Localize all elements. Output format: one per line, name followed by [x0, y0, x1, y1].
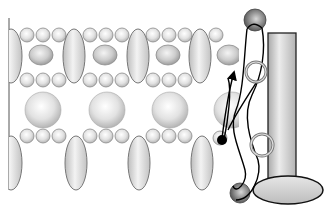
membrane-diagram — [0, 0, 326, 217]
lipid-head-small — [83, 129, 97, 143]
lattice-clipped — [0, 28, 250, 190]
lipid-head-small — [178, 129, 192, 143]
lipid-head-small — [146, 28, 160, 42]
lipid-head-small — [162, 129, 176, 143]
lipid-core-medium — [156, 45, 180, 65]
lipid-head-small — [20, 73, 34, 87]
tether-line — [236, 28, 264, 200]
lipid-tail-ellipse-lower — [128, 136, 150, 190]
lipid-tail-ellipse — [0, 29, 22, 83]
lipid-tail-ellipse — [189, 29, 211, 83]
lipid-head-small — [52, 129, 66, 143]
lipid-head-small — [52, 28, 66, 42]
lipid-tail-ellipse-lower — [65, 136, 87, 190]
lipid-head-small — [99, 28, 113, 42]
lipid-head-small — [162, 73, 176, 87]
lipid-tail-ellipse — [63, 29, 85, 83]
anchor-protein — [213, 9, 323, 204]
lipid-head-small — [36, 73, 50, 87]
ring-clamp-highlight — [246, 62, 266, 82]
lipid-head-small — [52, 73, 66, 87]
lipid-head-small — [146, 129, 160, 143]
lipid-head-small — [83, 28, 97, 42]
lipid-head-small — [178, 28, 192, 42]
lipid-core-large — [25, 92, 61, 128]
lipid-tail-ellipse-lower — [0, 136, 22, 190]
lipid-core-large — [89, 92, 125, 128]
lipid-head-small — [115, 129, 129, 143]
lipid-core-medium — [217, 45, 241, 65]
lipid-head-small — [20, 129, 34, 143]
lipid-core-medium — [93, 45, 117, 65]
lipid-tail-ellipse — [127, 29, 149, 83]
lipid-head-small — [178, 73, 192, 87]
protein-rod — [268, 33, 296, 183]
lipid-head-small — [209, 28, 223, 42]
lipid-head-small — [83, 73, 97, 87]
lipid-head-small — [99, 129, 113, 143]
diagram-svg — [0, 0, 326, 217]
lipid-head-small — [36, 28, 50, 42]
lipid-core-medium — [29, 45, 53, 65]
lipid-head-small — [115, 28, 129, 42]
lipid-head-small — [162, 28, 176, 42]
anchor-dot — [217, 135, 227, 145]
lipid-lattice — [0, 18, 250, 190]
lipid-head-small — [146, 73, 160, 87]
protein-base-ellipse — [253, 176, 323, 204]
lipid-head-small — [20, 28, 34, 42]
lipid-tail-ellipse-lower — [191, 136, 213, 190]
lipid-core-large — [152, 92, 188, 128]
lipid-head-small — [115, 73, 129, 87]
lipid-head-small — [36, 129, 50, 143]
lipid-head-small — [99, 73, 113, 87]
